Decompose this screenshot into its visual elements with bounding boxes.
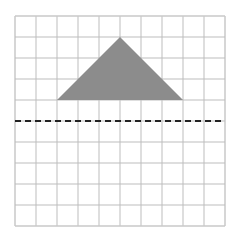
- triangle-shape: [57, 37, 183, 100]
- grid-diagram: [0, 0, 233, 240]
